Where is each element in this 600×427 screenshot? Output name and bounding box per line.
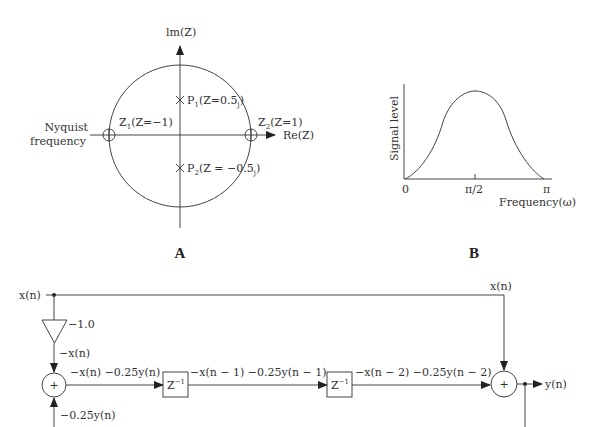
figure-canvas: lm(Z) Re(Z) Nyquist frequency Z1(Z=−1) Z… [0, 0, 600, 427]
signal-2-label: −x(n − 2) −0.25y(n − 2) [355, 366, 492, 379]
gain-triangle [42, 320, 67, 343]
x-tick-pi: π [543, 183, 550, 196]
signal-1-label: −x(n − 1) −0.25y(n − 1) [190, 366, 327, 379]
pole1-label: P1(Z=0.5j) [187, 94, 244, 109]
svg-text:+: + [499, 378, 508, 391]
zero1-label: Z1(Z=−1) [119, 116, 173, 131]
real-axis-label: Re(Z) [283, 129, 314, 142]
filter-block-diagram: x(n) x(n) −1.0 −x(n) + −0.25y(n) −x(n) −… [19, 280, 567, 427]
svg-text:+: + [49, 379, 58, 392]
delay1-label: Z−1 [167, 378, 185, 392]
panel-a-label: A [175, 245, 186, 261]
signal-0-label: −x(n) −0.25y(n) [70, 366, 160, 379]
neg-x-label: −x(n) [59, 347, 90, 360]
x-tick-0: 0 [402, 183, 409, 196]
bypass-label: x(n) [490, 280, 512, 293]
frequency-response-chart: 0 π/2 π Frequency(ω) Signal level B [388, 84, 576, 261]
panel-b-label: B [469, 245, 479, 261]
imag-axis-label: lm(Z) [166, 26, 196, 39]
nyquist-label-line2: frequency [30, 135, 87, 148]
output-label: y(n) [544, 378, 567, 391]
pole2-label: P2(Z = −0.5j) [187, 162, 260, 177]
zero2-label: Z2(Z=1) [258, 116, 303, 131]
pole-zero-plot: lm(Z) Re(Z) Nyquist frequency Z1(Z=−1) Z… [30, 26, 314, 261]
gain-label: −1.0 [68, 318, 95, 331]
nyquist-label-line1: Nyquist [44, 121, 88, 134]
x-axis-label: Frequency(ω) [499, 196, 576, 209]
response-curve [405, 91, 544, 179]
feedback-label: −0.25y(n) [60, 409, 116, 422]
delay2-label: Z−1 [331, 378, 349, 392]
y-axis-label: Signal level [388, 95, 401, 161]
input-label: x(n) [19, 289, 41, 302]
x-tick-half-pi: π/2 [465, 183, 483, 196]
